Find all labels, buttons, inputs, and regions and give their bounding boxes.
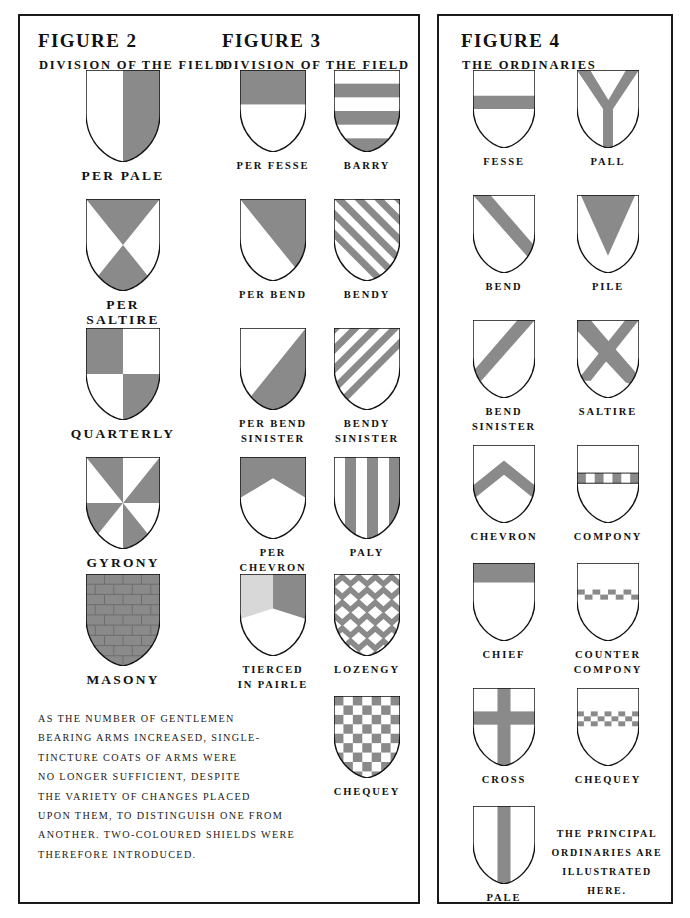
shield-label: PALL bbox=[559, 154, 657, 169]
shield-label: SALTIRE bbox=[559, 404, 657, 419]
figure3-shield-paly: PALY bbox=[316, 457, 418, 560]
shield-label: PILE bbox=[559, 279, 657, 294]
shield-label: BENDY SINISTER bbox=[316, 416, 418, 446]
heraldry-figure-page: FIGURE 2 DIVISION OF THE FIELD FIGURE 3 … bbox=[0, 0, 690, 918]
figures-2-and-3-panel: FIGURE 2 DIVISION OF THE FIELD FIGURE 3 … bbox=[18, 14, 420, 904]
shield-label: BEND SINISTER bbox=[455, 404, 553, 434]
shield-label: CHEVRON bbox=[455, 529, 553, 544]
figure-4-title-text: FIGURE 4 bbox=[461, 30, 560, 51]
figure2-shield-gyrony: GYRONY bbox=[68, 457, 178, 570]
shield-cross bbox=[473, 688, 535, 766]
figure4-shield-pall: PALL bbox=[559, 70, 657, 169]
shield-masony bbox=[86, 574, 160, 666]
shield-chequey-band bbox=[577, 688, 639, 766]
figure2-shield-per-pale: PER PALE bbox=[68, 70, 178, 183]
figure4-shield-chevron: CHEVRON bbox=[455, 445, 553, 544]
shield-label: PALY bbox=[316, 545, 418, 560]
figure-2-title-text: FIGURE 2 bbox=[38, 30, 137, 51]
figure-4-panel: FIGURE 4 THE ORDINARIES FESSEBENDBEND SI… bbox=[437, 14, 673, 904]
shield-bendy-sinister bbox=[334, 328, 400, 410]
figure3-shield-per-bend: PER BEND bbox=[222, 199, 324, 302]
shield-label: CROSS bbox=[455, 772, 553, 787]
figure3-shield-barry: BARRY bbox=[316, 70, 418, 173]
shield-label: COUNTER COMPONY bbox=[559, 647, 657, 677]
shield-label: BARRY bbox=[316, 158, 418, 173]
shield-label: BENDY bbox=[316, 287, 418, 302]
figure-4-title: FIGURE 4 bbox=[461, 30, 560, 52]
shield-pall bbox=[577, 70, 639, 148]
figure4-shield-compony: COMPONY bbox=[559, 445, 657, 544]
figure4-shield-chief: CHIEF bbox=[455, 563, 553, 662]
figure-3-title: FIGURE 3 bbox=[222, 30, 321, 52]
shield-label: CHEQUEY bbox=[559, 772, 657, 787]
shield-paly bbox=[334, 457, 400, 539]
shield-counter-compony bbox=[577, 563, 639, 641]
figure3-shield-per-chevron: PER CHEVRON bbox=[222, 457, 324, 575]
shield-tierced-in-pairle bbox=[240, 574, 306, 656]
shield-label: FESSE bbox=[455, 154, 553, 169]
shield-label: PER PALE bbox=[68, 168, 178, 183]
shield-per-chevron bbox=[240, 457, 306, 539]
figure4-shield-fesse: FESSE bbox=[455, 70, 553, 169]
figure4-shield-bend: BEND bbox=[455, 195, 553, 294]
figure2-shield-per-saltire: PER SALTIRE bbox=[68, 199, 178, 327]
shield-label: LOZENGY bbox=[316, 662, 418, 677]
figure2-shield-quarterly: QUARTERLY bbox=[68, 328, 178, 441]
shield-per-saltire bbox=[86, 199, 160, 291]
shield-label: PER SALTIRE bbox=[68, 297, 178, 327]
figure3-shield-per-bend-sinister: PER BEND SINISTER bbox=[222, 328, 324, 446]
shield-per-bend-sinister bbox=[240, 328, 306, 410]
shield-chevron bbox=[473, 445, 535, 523]
shield-bend-sinister bbox=[473, 320, 535, 398]
shield-barry bbox=[334, 70, 400, 152]
shield-label: PER BEND SINISTER bbox=[222, 416, 324, 446]
shield-bendy bbox=[334, 199, 400, 281]
figure4-shield-counter-compony: COUNTER COMPONY bbox=[559, 563, 657, 677]
figure4-shield-pale: PALE bbox=[455, 806, 553, 905]
figure4-shield-cross: CROSS bbox=[455, 688, 553, 787]
shield-lozengy bbox=[334, 574, 400, 656]
figure4-shield-pile: PILE bbox=[559, 195, 657, 294]
figure2-shield-masony: MASONY bbox=[68, 574, 178, 687]
shield-label: PER BEND bbox=[222, 287, 324, 302]
shield-label: TIERCED IN PAIRLE bbox=[222, 662, 324, 692]
shield-label: COMPONY bbox=[559, 529, 657, 544]
shield-compony bbox=[577, 445, 639, 523]
shield-label: CHIEF bbox=[455, 647, 553, 662]
shield-quarterly bbox=[86, 328, 160, 420]
figure-2-title: FIGURE 2 bbox=[38, 30, 137, 52]
shield-per-pale bbox=[86, 70, 160, 162]
figure4-shield-chequey-band: CHEQUEY bbox=[559, 688, 657, 787]
shield-label: QUARTERLY bbox=[68, 426, 178, 441]
shield-per-fesse bbox=[240, 70, 306, 152]
shield-label: PER CHEVRON bbox=[222, 545, 324, 575]
figure3-shield-bendy-sinister: BENDY SINISTER bbox=[316, 328, 418, 446]
shield-chief bbox=[473, 563, 535, 641]
figure-3-title-text: FIGURE 3 bbox=[222, 30, 321, 51]
shield-gyrony bbox=[86, 457, 160, 549]
figure-2-body-paragraph: AS THE NUMBER OF GENTLEMEN BEARING ARMS … bbox=[38, 709, 398, 864]
figure4-shield-saltire: SALTIRE bbox=[559, 320, 657, 419]
shield-label: GYRONY bbox=[68, 555, 178, 570]
shield-pile bbox=[577, 195, 639, 273]
shield-bend bbox=[473, 195, 535, 273]
shield-label: MASONY bbox=[68, 672, 178, 687]
figure-4-note: THE PRINCIPAL ORDINARIES ARE ILLUSTRATED… bbox=[549, 824, 665, 900]
shield-label: PALE bbox=[455, 890, 553, 905]
figure3-shield-tierced-in-pairle: TIERCED IN PAIRLE bbox=[222, 574, 324, 692]
shield-label: PER FESSE bbox=[222, 158, 324, 173]
figure3-shield-lozengy: LOZENGY bbox=[316, 574, 418, 677]
shield-saltire bbox=[577, 320, 639, 398]
figure3-shield-bendy: BENDY bbox=[316, 199, 418, 302]
shield-fesse bbox=[473, 70, 535, 148]
shield-pale bbox=[473, 806, 535, 884]
shield-label: BEND bbox=[455, 279, 553, 294]
shield-per-bend bbox=[240, 199, 306, 281]
figure4-shield-bend-sinister: BEND SINISTER bbox=[455, 320, 553, 434]
figure3-shield-per-fesse: PER FESSE bbox=[222, 70, 324, 173]
